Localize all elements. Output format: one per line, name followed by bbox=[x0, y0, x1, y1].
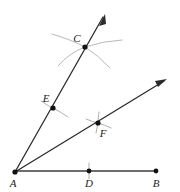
point-c bbox=[82, 44, 87, 49]
label-c: C bbox=[73, 32, 81, 44]
construction-arc-c-right bbox=[58, 40, 122, 66]
geometry-figure: A B C D E F bbox=[0, 0, 180, 192]
point-b bbox=[154, 169, 159, 174]
label-d: D bbox=[84, 177, 93, 189]
label-e: E bbox=[42, 92, 50, 104]
point-d bbox=[87, 169, 92, 174]
point-e bbox=[50, 105, 55, 110]
label-a: A bbox=[9, 177, 17, 189]
ray-af bbox=[15, 81, 164, 172]
point-a bbox=[12, 169, 17, 174]
figure-canvas: A B C D E F bbox=[0, 0, 180, 192]
ray-ac bbox=[15, 17, 103, 172]
arrowhead-ac bbox=[99, 14, 106, 26]
label-b: B bbox=[153, 177, 160, 189]
point-f bbox=[95, 120, 100, 125]
label-f: F bbox=[99, 127, 107, 139]
